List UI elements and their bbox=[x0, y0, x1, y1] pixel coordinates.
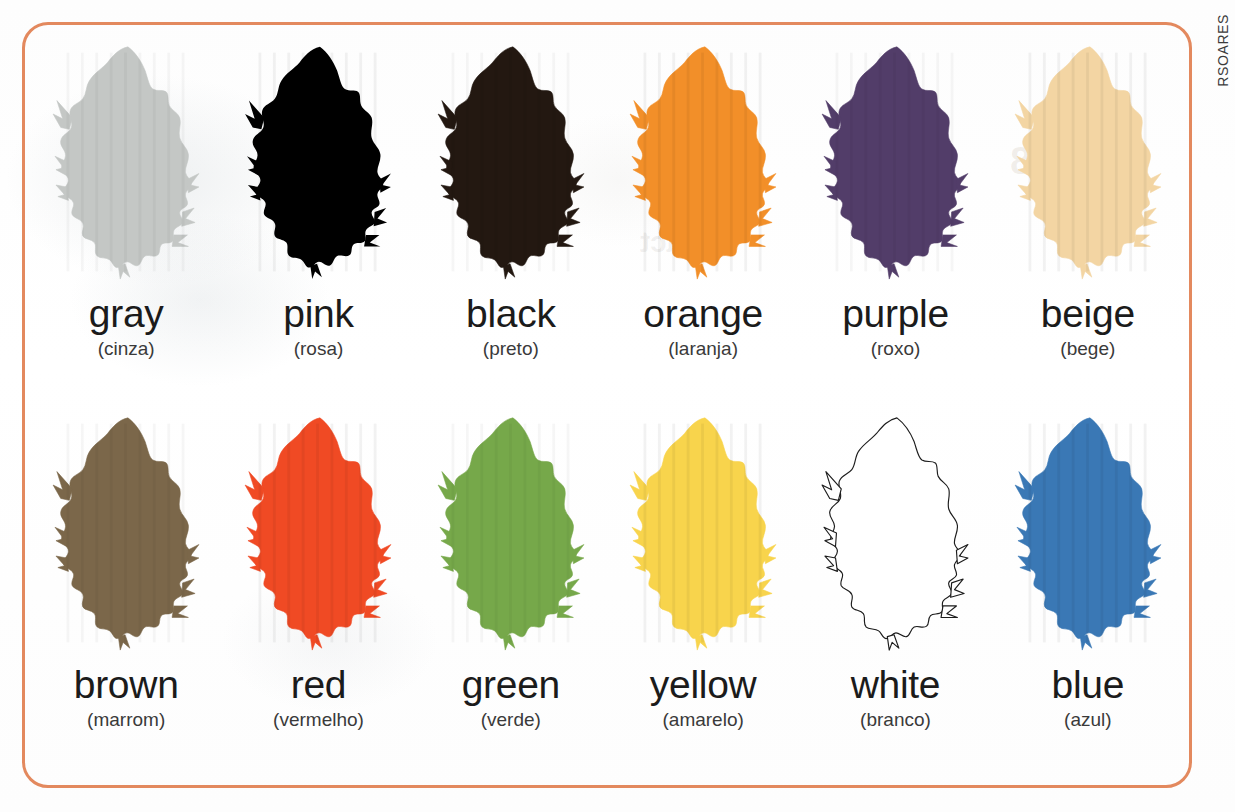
paint-blob-shape bbox=[50, 43, 202, 281]
swatch-label-en: blue bbox=[1052, 665, 1125, 705]
swatch-blob-beige bbox=[1008, 42, 1168, 282]
color-swatch-cell: red(vermelho) bbox=[222, 405, 414, 776]
color-swatch-cell: orange(laranja) bbox=[607, 34, 799, 405]
color-swatch-cell: white(branco) bbox=[799, 405, 991, 776]
swatch-label-pt: (amarelo) bbox=[663, 710, 744, 730]
swatch-label-pt: (marrom) bbox=[87, 710, 165, 730]
color-swatch-cell: black(preto) bbox=[415, 34, 607, 405]
swatch-label-en: yellow bbox=[650, 665, 757, 705]
swatch-label-pt: (roxo) bbox=[871, 339, 921, 359]
swatch-blob-orange bbox=[623, 42, 783, 282]
paint-blob-shape bbox=[1012, 414, 1164, 652]
swatch-label-pt: (bege) bbox=[1060, 339, 1115, 359]
swatch-label-pt: (verde) bbox=[481, 710, 541, 730]
swatch-blob-pink bbox=[238, 42, 398, 282]
swatch-label-en: orange bbox=[643, 294, 763, 334]
paint-blob-shape bbox=[242, 43, 394, 281]
color-swatch-cell: beige(bege) bbox=[992, 34, 1184, 405]
swatch-blob-red bbox=[238, 413, 398, 653]
swatch-blob-gray bbox=[46, 42, 206, 282]
swatch-label-en: white bbox=[851, 665, 941, 705]
color-swatch-grid: gray(cinza)pink(rosa)black(preto)orange(… bbox=[30, 34, 1184, 776]
swatch-label-en: black bbox=[466, 294, 556, 334]
color-swatch-cell: blue(azul) bbox=[992, 405, 1184, 776]
swatch-label-pt: (vermelho) bbox=[273, 710, 364, 730]
swatch-label-pt: (preto) bbox=[483, 339, 539, 359]
color-swatch-cell: green(verde) bbox=[415, 405, 607, 776]
paint-blob-shape bbox=[627, 414, 779, 652]
paint-blob-shape bbox=[819, 414, 971, 652]
paint-blob-shape bbox=[435, 414, 587, 652]
swatch-label-en: brown bbox=[74, 665, 179, 705]
paint-blob-shape bbox=[435, 43, 587, 281]
swatch-label-en: red bbox=[291, 665, 346, 705]
swatch-blob-brown bbox=[46, 413, 206, 653]
swatch-label-pt: (rosa) bbox=[294, 339, 344, 359]
swatch-blob-yellow bbox=[623, 413, 783, 653]
swatch-label-en: beige bbox=[1041, 294, 1135, 334]
swatch-label-pt: (azul) bbox=[1064, 710, 1112, 730]
color-swatch-cell: gray(cinza) bbox=[30, 34, 222, 405]
swatch-label-en: purple bbox=[842, 294, 949, 334]
swatch-label-en: green bbox=[462, 665, 560, 705]
color-swatch-cell: purple(roxo) bbox=[799, 34, 991, 405]
swatch-label-pt: (laranja) bbox=[668, 339, 738, 359]
paint-blob-shape bbox=[242, 414, 394, 652]
swatch-label-en: pink bbox=[283, 294, 353, 334]
paint-blob-shape bbox=[627, 43, 779, 281]
swatch-label-pt: (branco) bbox=[860, 710, 931, 730]
swatch-label-pt: (cinza) bbox=[98, 339, 155, 359]
swatch-blob-blue bbox=[1008, 413, 1168, 653]
credit-watermark: RSOARES bbox=[1215, 14, 1231, 87]
color-swatch-cell: yellow(amarelo) bbox=[607, 405, 799, 776]
worksheet-page: Fact Fact 2.18 Fact RSOARES gray(cinza)p… bbox=[0, 0, 1235, 812]
swatch-blob-black bbox=[431, 42, 591, 282]
color-swatch-cell: brown(marrom) bbox=[30, 405, 222, 776]
swatch-blob-green bbox=[431, 413, 591, 653]
swatch-blob-purple bbox=[815, 42, 975, 282]
color-swatch-cell: pink(rosa) bbox=[222, 34, 414, 405]
swatch-label-en: gray bbox=[89, 294, 164, 334]
paint-blob-shape bbox=[819, 43, 971, 281]
swatch-blob-white bbox=[815, 413, 975, 653]
paint-blob-shape bbox=[1012, 43, 1164, 281]
paint-blob-shape bbox=[50, 414, 202, 652]
